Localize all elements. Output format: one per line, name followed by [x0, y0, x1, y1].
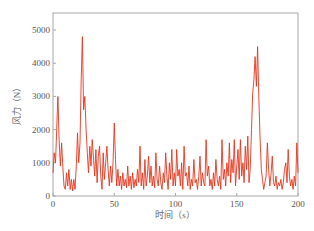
- y-tick-label: 5000: [32, 25, 51, 35]
- y-tick-label: 0: [46, 191, 51, 201]
- x-tick-label: 200: [291, 199, 305, 209]
- y-tick-label: 2000: [32, 125, 51, 135]
- y-tick-label: 4000: [32, 58, 51, 68]
- x-tick-label: 0: [51, 199, 56, 209]
- y-tick-label: 3000: [32, 91, 51, 101]
- chart: 010002000300040005000 050100150200 时间（s）…: [0, 0, 314, 231]
- x-tick-label: 150: [230, 199, 244, 209]
- y-axis-title: 风力（N）: [11, 83, 22, 126]
- x-tick-label: 100: [169, 199, 183, 209]
- x-tick-label: 50: [110, 199, 120, 209]
- y-axis-ticks: 010002000300040005000: [32, 25, 56, 201]
- x-axis-title: 时间（s）: [155, 209, 195, 220]
- y-tick-label: 1000: [32, 158, 51, 168]
